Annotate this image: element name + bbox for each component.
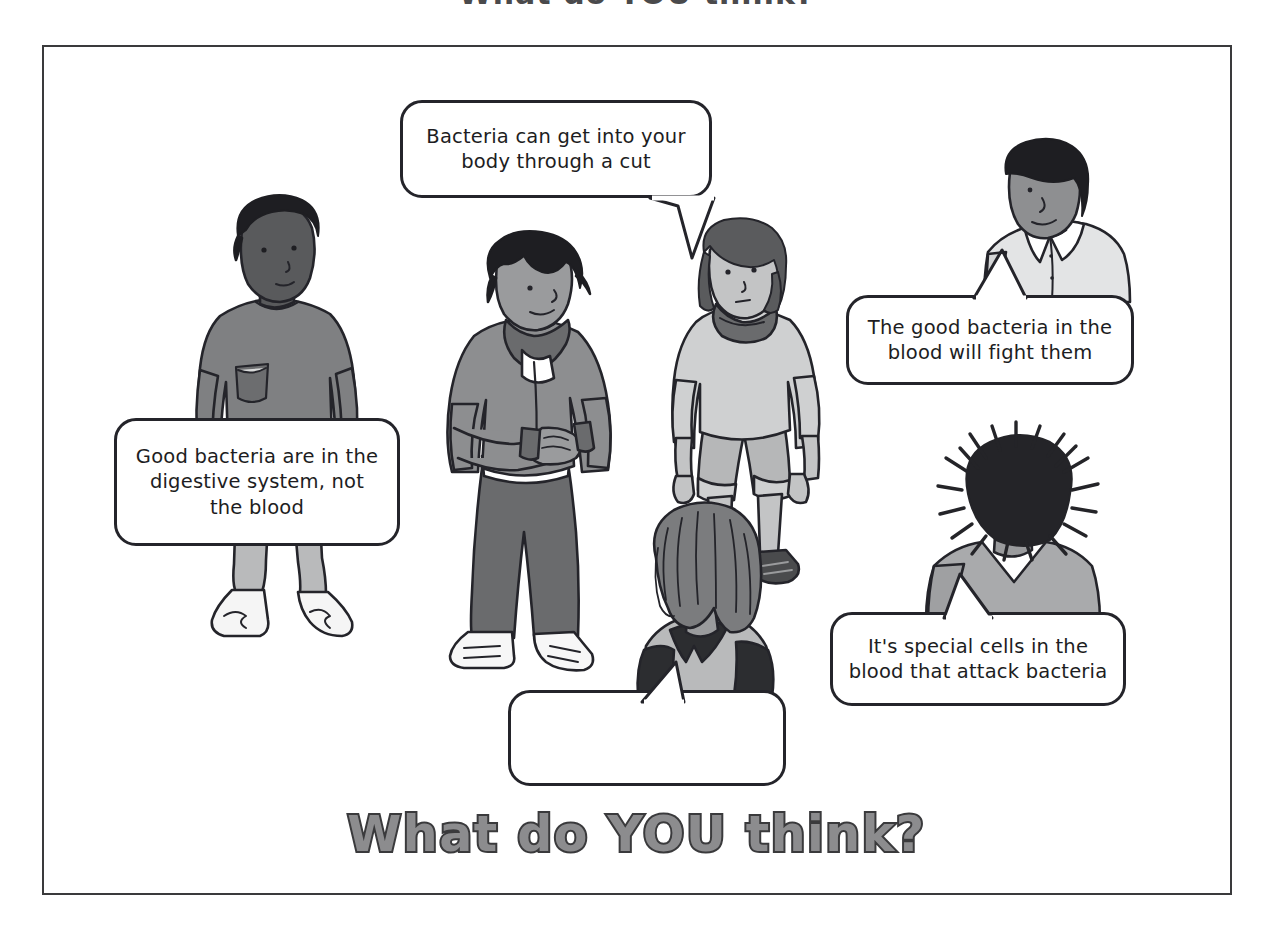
bubble-tail-top: [648, 192, 728, 264]
character-boy-hoodie: [438, 232, 648, 672]
bubble-right-upper-text: The good bacteria in the blood will figh…: [863, 315, 1117, 366]
bottom-title: What do YOU think?: [0, 806, 1273, 863]
page-title-cropped: What do YOU think?: [0, 0, 1273, 6]
bubble-right-upper[interactable]: The good bacteria in the blood will figh…: [846, 295, 1134, 385]
bubble-right-lower[interactable]: It's special cells in the blood that att…: [830, 612, 1126, 706]
bubble-tail-right-lower: [930, 572, 1004, 624]
bubble-top-text: Bacteria can get into your body through …: [417, 124, 695, 175]
worksheet-page: What do YOU think?: [0, 0, 1273, 941]
bubble-tail-empty: [620, 660, 690, 708]
bubble-tail-right-upper: [966, 248, 1036, 306]
bubble-right-lower-text: It's special cells in the blood that att…: [847, 634, 1109, 685]
bubble-top[interactable]: Bacteria can get into your body through …: [400, 100, 712, 198]
bubble-left[interactable]: Good bacteria are in the digestive syste…: [114, 418, 400, 546]
bubble-left-text: Good bacteria are in the digestive syste…: [131, 444, 383, 520]
